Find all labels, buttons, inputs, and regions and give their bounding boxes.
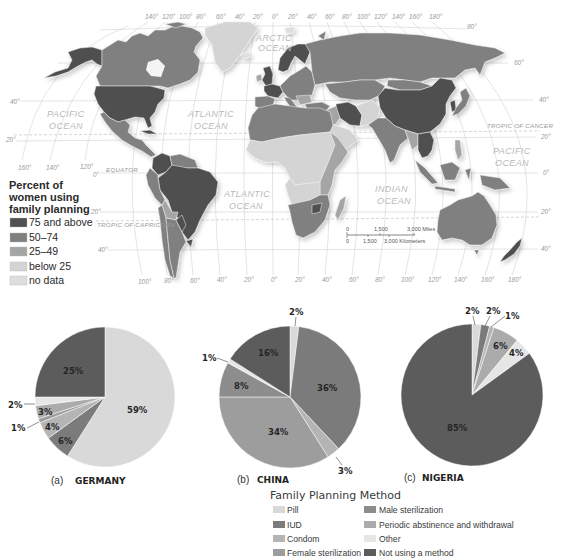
lon-top-label: 120° bbox=[374, 13, 388, 20]
panel-letter-a: (a) bbox=[51, 475, 63, 486]
panel-letter-c: (c) bbox=[404, 472, 416, 483]
country-ireland bbox=[256, 74, 262, 82]
pie-label: 85% bbox=[447, 423, 468, 433]
method-legend-title: Family Planning Method bbox=[270, 489, 401, 502]
pie-chart-germany: 59% 6% 4% 1% 3% 2% 25% (a) GERMANY bbox=[8, 327, 175, 486]
legend-label-iud: IUD bbox=[287, 520, 302, 530]
leader-line bbox=[295, 317, 296, 326]
lat-right-label: 0° bbox=[543, 169, 550, 176]
arctic-ocean-label-2: OCEAN bbox=[258, 43, 292, 53]
country-united-kingdom bbox=[262, 66, 273, 86]
country-australia bbox=[437, 192, 497, 245]
country-kazakhstan-central-asia bbox=[325, 80, 385, 100]
scale-miles-0: 0 bbox=[346, 226, 349, 232]
swatch-not-using bbox=[364, 549, 376, 556]
lon-bottom-label: 20° bbox=[243, 276, 254, 283]
leader-line bbox=[491, 316, 505, 327]
lon-top-label: 60° bbox=[325, 13, 335, 20]
leader-line bbox=[27, 422, 39, 428]
pie-title-china: CHINA bbox=[257, 475, 289, 485]
lon-top-label: 100° bbox=[357, 13, 371, 20]
legend-swatch-25-49 bbox=[10, 247, 27, 256]
legend-label-condom: Condom bbox=[287, 534, 319, 544]
lon-top-label: 140° bbox=[145, 13, 159, 20]
lat-left-label: 40° bbox=[98, 246, 108, 253]
country-uruguay bbox=[186, 239, 193, 247]
swatch-iud bbox=[273, 521, 285, 528]
country-new-zealand bbox=[500, 238, 522, 262]
country-russia bbox=[305, 33, 505, 85]
indian-ocean-label-1: INDIAN bbox=[375, 184, 408, 194]
lat-left-label: 20° bbox=[90, 208, 101, 215]
lon-top-label: 20° bbox=[252, 13, 263, 20]
swatch-other bbox=[364, 535, 376, 542]
island-sumatra bbox=[415, 160, 438, 184]
lon-left-label: 160° bbox=[18, 164, 32, 171]
pie-label: 1% bbox=[11, 423, 26, 433]
family-planning-method-legend: Family Planning Method Pill IUD Condom F… bbox=[270, 489, 514, 558]
swatch-periodic-abstinence bbox=[364, 521, 376, 528]
pie-label: 16% bbox=[258, 348, 279, 358]
pie-label: 34% bbox=[268, 427, 289, 437]
pie-label: 6% bbox=[58, 436, 73, 446]
world-map: ARCTIC OCEAN PACIFIC OCEAN ATLANTIC OCEA… bbox=[5, 13, 553, 286]
legend-swatch-50-74 bbox=[10, 233, 27, 242]
leader-line bbox=[473, 316, 475, 325]
atlantic-ocean-north-label-2: OCEAN bbox=[194, 121, 228, 131]
pie-label: 3% bbox=[338, 466, 353, 476]
country-canada bbox=[96, 26, 203, 88]
lon-bottom-label: 100° bbox=[138, 278, 152, 285]
lat-right-label: 20° bbox=[540, 133, 551, 140]
island-new-guinea bbox=[480, 175, 510, 190]
lon-top-label: 40° bbox=[307, 13, 317, 20]
scale-miles-1500: 1,500 bbox=[374, 226, 388, 232]
pacific-ocean-west-label-1: PACIFIC bbox=[47, 109, 85, 119]
swatch-female-sterilization bbox=[273, 549, 285, 556]
legend-label-no-data: no data bbox=[29, 274, 64, 286]
legend-label-below-25: below 25 bbox=[29, 260, 71, 272]
lat-right-label: 20° bbox=[540, 208, 551, 215]
lon-top-label: 180° bbox=[429, 13, 443, 20]
lon-top-label: 100° bbox=[179, 13, 193, 20]
lon-left-label: 120° bbox=[80, 163, 94, 170]
lon-top-label: 80° bbox=[342, 13, 352, 20]
pie-label: 8% bbox=[234, 381, 249, 391]
country-alaska bbox=[44, 47, 102, 78]
pie-label: 4% bbox=[509, 348, 524, 358]
lon-top-label: 20° bbox=[287, 13, 298, 20]
longitude-labels-left: 160° 140° 120° bbox=[18, 163, 94, 171]
indian-ocean-label-2: OCEAN bbox=[377, 196, 411, 206]
legend-label-female-sterilization: Female sterilization bbox=[287, 548, 361, 558]
pacific-ocean-west-label-2: OCEAN bbox=[49, 121, 83, 131]
lon-bottom-label: 160° bbox=[481, 276, 495, 283]
lat-right-label: 80° bbox=[467, 23, 477, 30]
lon-bottom-label: 100° bbox=[401, 276, 415, 283]
pie-nigeria-slices bbox=[401, 324, 543, 466]
map-legend-title-line-2: women using bbox=[8, 191, 79, 203]
lon-bottom-label: 40° bbox=[322, 276, 332, 283]
longitude-labels-bottom: 100° 80° 60° 40° 20° 0° 20° 40° 60° 80° … bbox=[138, 276, 522, 285]
lon-top-label: 140° bbox=[392, 13, 406, 20]
atlantic-ocean-south-label-1: ATLANTIC bbox=[223, 189, 270, 199]
swatch-condom bbox=[273, 535, 285, 542]
pie-label: 2% bbox=[486, 306, 501, 316]
arctic-ocean-label-1: ARCTIC bbox=[255, 33, 292, 43]
lon-bottom-label: 120° bbox=[428, 276, 442, 283]
swatch-pill bbox=[273, 506, 285, 513]
country-greenland bbox=[205, 22, 258, 72]
legend-label-pill: Pill bbox=[287, 505, 299, 515]
lon-bottom-label: 20° bbox=[294, 276, 305, 283]
legend-swatch-no-data bbox=[10, 276, 27, 285]
longitude-labels-top: 140° 120° 100° 80° 60° 40° 20° 0° 20° 40… bbox=[145, 13, 443, 20]
scale-km-0: 0 bbox=[346, 238, 349, 244]
pie-label: 36% bbox=[317, 383, 338, 393]
lon-top-label: 0° bbox=[272, 13, 279, 20]
parallel-80n bbox=[100, 26, 466, 30]
pie-chart-china: 2% 36% 3% 34% 8% 1% 16% (b) CHINA bbox=[202, 307, 361, 485]
map-legend: Percent of women using family planning 7… bbox=[8, 179, 93, 286]
tropic-of-capricorn-label: TROPIC OF CAPRICORN bbox=[97, 221, 175, 228]
legend-label-other: Other bbox=[379, 534, 401, 544]
land-masses bbox=[44, 22, 522, 278]
family-planning-figure: ARCTIC OCEAN PACIFIC OCEAN ATLANTIC OCEA… bbox=[0, 0, 561, 560]
scale-miles-3000: 3,000 Miles bbox=[407, 226, 435, 232]
